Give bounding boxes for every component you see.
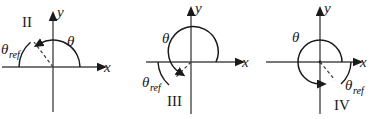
panel-quadrant-4-canvas: IV θ θ ref x y: [256, 0, 383, 119]
theta-ref-label: θ ref: [142, 74, 162, 93]
terminal-ray-dashed: [320, 62, 335, 80]
y-axis-label: y: [55, 4, 64, 20]
x-axis-label: x: [241, 54, 249, 70]
x-axis-label: x: [359, 54, 367, 70]
panel-quadrant-3-canvas: III θ θ ref x y: [128, 0, 256, 119]
terminal-ray-dashed: [34, 42, 53, 67]
ref-angle-arc: [19, 42, 31, 67]
theta-label: θ: [292, 29, 300, 45]
panel-quadrant-3: III θ θ ref x y: [128, 0, 256, 119]
theta-ref-subscript: ref: [353, 85, 365, 96]
quadrant-label: III: [167, 93, 182, 109]
theta-ref-symbol: θ: [345, 77, 353, 93]
y-axis-label: y: [193, 0, 202, 16]
quadrant-label: IV: [334, 97, 350, 113]
theta-label: θ: [162, 30, 170, 46]
theta-arc: [168, 27, 218, 73]
panel-quadrant-2-canvas: II θ θ ref x y: [0, 0, 128, 119]
theta-ref-symbol: θ: [142, 74, 150, 90]
y-axis-label: y: [322, 0, 331, 16]
theta-ref-label: θ ref: [345, 77, 365, 96]
theta-ref-subscript: ref: [9, 49, 21, 60]
theta-ref-subscript: ref: [150, 82, 162, 93]
theta-ref-symbol: θ: [1, 41, 9, 57]
panel-quadrant-4: IV θ θ ref x y: [256, 0, 383, 119]
theta-label: θ: [67, 33, 75, 49]
quadrant-label: II: [22, 14, 32, 30]
reference-angle-figure: II θ θ ref x y: [0, 0, 383, 119]
theta-ref-label: θ ref: [1, 41, 21, 60]
x-axis-label: x: [103, 59, 111, 75]
panel-quadrant-2: II θ θ ref x y: [0, 0, 128, 119]
